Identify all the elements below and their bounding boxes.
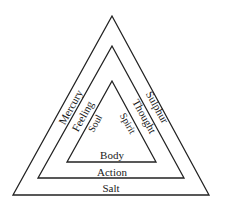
alchemy-triangle-diagram: Mercury Sulphur Salt Feeling Thought Act… [0, 0, 225, 207]
label-action: Action [97, 166, 127, 178]
label-body: Body [100, 149, 124, 161]
label-spirit: Spirit [118, 111, 139, 136]
diagram-canvas: Mercury Sulphur Salt Feeling Thought Act… [0, 0, 225, 207]
label-salt: Salt [102, 182, 119, 194]
